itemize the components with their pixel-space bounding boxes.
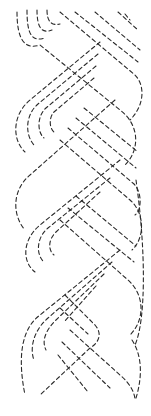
braid-pattern-icon: [0, 0, 151, 416]
braid-band: [21, 196, 141, 395]
braid-band: [17, 10, 142, 165]
braid-band: [26, 108, 142, 272]
braid-stencil: [0, 0, 151, 416]
braid-band: [16, 42, 115, 230]
braid-band: [40, 180, 143, 400]
